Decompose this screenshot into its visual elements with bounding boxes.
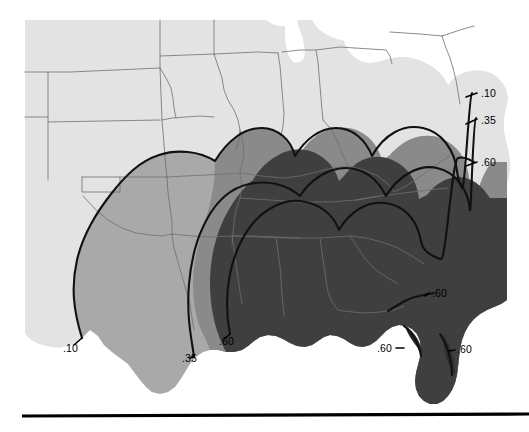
map-canvas: .10 .35 .60 .60 .10 .35 .60 .60 .60 [0, 0, 529, 432]
contour-label-60-florida-east: .60 [457, 343, 472, 355]
lake-erie-shape [350, 40, 391, 57]
border-newyork-east [442, 26, 474, 36]
contour-map-figure: .10 .35 .60 .60 .10 .35 .60 .60 .60 [0, 0, 529, 432]
contour-label-35-texas: .35 [182, 352, 197, 364]
contour-label-60-gulf: .60 [219, 335, 234, 347]
bottom-rule [22, 414, 529, 416]
border-pennsylvania-east [442, 36, 453, 68]
contour-label-60-east: .60 [481, 156, 496, 168]
contour-label-60-florida-north: .60 [432, 287, 447, 299]
leader-60-florida-east [449, 350, 455, 351]
contour-label-10-east: .10 [481, 87, 496, 99]
contour-label-35-east: .35 [481, 114, 496, 126]
contour-label-10-texas: .10 [63, 342, 78, 354]
contour-label-60-florida-west: .60 [377, 342, 392, 354]
